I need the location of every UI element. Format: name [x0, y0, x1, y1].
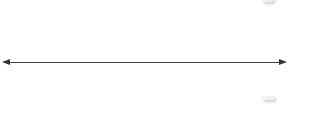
arnoff-dot-plot — [0, 0, 319, 130]
arnoff-class-label — [262, 96, 274, 100]
